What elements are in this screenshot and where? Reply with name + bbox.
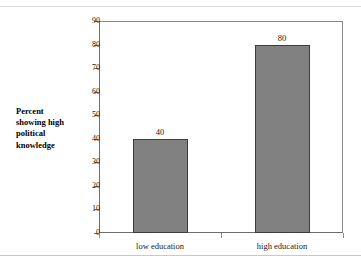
- y-axis-tick-label-wrap: 80: [68, 45, 100, 46]
- x-axis-category-label: high education: [232, 241, 332, 251]
- y-axis-tick-label: 0: [78, 229, 100, 237]
- y-axis-tick-label-wrap: 50: [68, 115, 100, 116]
- y-axis-tick-label: 70: [78, 64, 100, 72]
- y-axis-tick-label: 10: [78, 205, 100, 213]
- y-axis-tick-label: 60: [78, 88, 100, 96]
- y-axis-tick-label: 40: [78, 135, 100, 143]
- y-axis-tick-label-wrap: 40: [68, 139, 100, 140]
- y-axis-tick-label-wrap: 90: [68, 21, 100, 22]
- y-axis-tick-label: 20: [78, 182, 100, 190]
- x-axis-category-label: low education: [110, 241, 210, 251]
- y-axis-tick-label-wrap: 60: [68, 92, 100, 93]
- y-axis-tick-label-wrap: 10: [68, 209, 100, 210]
- page-rule-top: [0, 6, 361, 7]
- bar: [133, 139, 188, 233]
- y-axis-tick-label-wrap: 20: [68, 186, 100, 187]
- y-axis-tick-label: 50: [78, 111, 100, 119]
- bar: [255, 45, 310, 233]
- y-axis-tick-label-wrap: 70: [68, 68, 100, 69]
- y-axis-tick-label: 30: [78, 158, 100, 166]
- y-axis-tick-label: 90: [78, 17, 100, 25]
- y-axis-tick-label: 80: [78, 41, 100, 49]
- bar-value-label: 40: [140, 128, 180, 137]
- y-axis-tick-label-wrap: 0: [68, 233, 100, 234]
- x-axis-tick: [221, 233, 222, 238]
- y-axis-tick-label-wrap: 30: [68, 162, 100, 163]
- page-rule-bottom: [0, 255, 361, 256]
- bar-value-label: 80: [262, 34, 302, 43]
- x-axis-tick: [99, 233, 100, 238]
- x-axis-tick: [343, 233, 344, 238]
- bar-chart-figure: Percent showing high political knowledge…: [0, 0, 361, 263]
